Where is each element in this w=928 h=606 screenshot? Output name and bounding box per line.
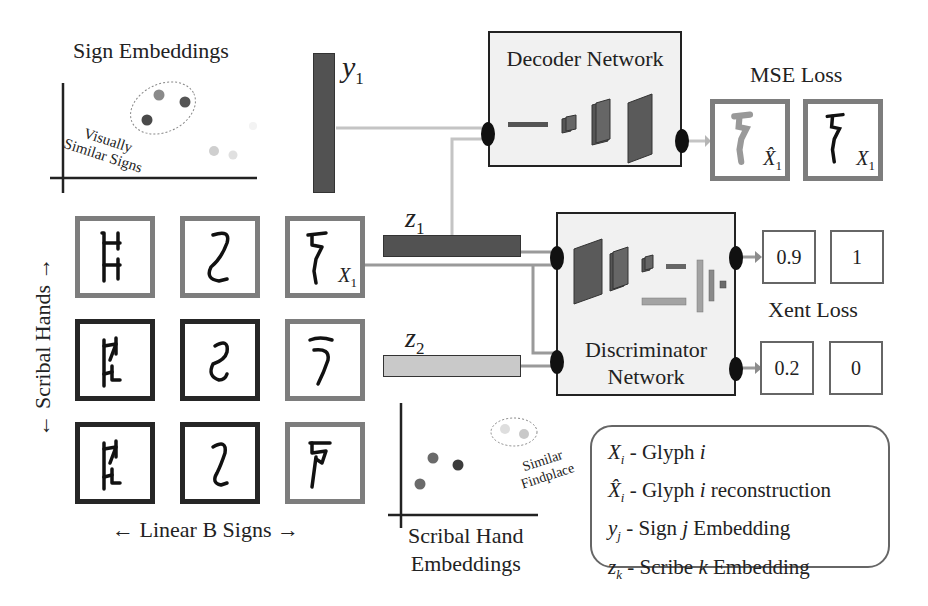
label-sub: 1 [869,158,876,173]
discriminator-output-port-real [729,246,743,270]
discriminator-output-port-fake [729,357,743,381]
layer-conv [645,255,653,270]
legend-item: X̂i - Glyph i reconstruction [608,475,888,513]
embedding-point [453,460,464,471]
reconstruction-label: X̂1 [763,147,782,174]
label-base: X̂ [763,147,775,169]
glyph-tile [180,422,260,504]
y1-base: y [342,50,355,83]
connector-z1-decoder [452,139,490,236]
glyph-tile [285,319,365,401]
legend-symbol: X̂i [608,478,624,502]
decoder-output-port [675,129,689,153]
scribal-hand-embeddings-title: Scribal Hand Embeddings [408,522,523,578]
discriminator-label-line: Discriminator [558,336,734,363]
decoder-network-box: Decoder Network [488,31,682,167]
embedding-point [519,429,529,439]
ladder-sign-glyph [80,427,150,499]
embedding-point [500,424,510,434]
arrowhead [755,251,762,263]
glyph-tile [180,319,260,401]
glyph-tile [75,319,155,401]
fake-target-box: 0 [829,341,883,395]
discriminator-input-port-real [550,246,564,270]
legend-text: - Sign [621,516,682,540]
original-label: X1 [856,147,875,174]
glyph-stroke [104,344,116,360]
title-line: Embeddings [408,550,523,578]
z1-label: z1 [405,202,424,239]
title-line: Scribal Hand [408,522,523,550]
layer-output [628,94,652,163]
legend-text: - Glyph [624,440,699,464]
legend-symbol: zk [608,555,622,579]
real-prediction-box: 0.9 [762,230,816,284]
hook-sign-glyph [290,427,360,499]
real-target-box: 1 [830,230,884,284]
legend-text: Embedding [708,555,810,579]
legend-text: reconstruction [706,478,831,502]
discriminator-network-box: Discriminator Network [556,212,736,396]
label-sub: 1 [776,158,783,173]
glyph-tile [75,216,155,298]
scribal-hands-axis-label: ← Scribal Hands → [30,247,56,447]
label-base: X [338,264,350,286]
glyph-tile [285,422,365,504]
s-curve-sign-glyph [185,221,255,293]
xent-loss-title: Xent Loss [768,297,858,323]
ladder-sign-glyph [80,324,150,396]
ladder-sign-glyph [80,221,150,293]
glyph-stroke [312,235,322,283]
discriminator-label-line: Network [558,363,734,390]
legend-symbol: yj [608,516,621,540]
y1-sub: 1 [355,69,364,88]
notation-legend: Xi - Glyph iX̂i - Glyph i reconstruction… [590,425,890,568]
z2-label: z2 [405,322,424,359]
s-curve-sign-glyph [185,427,255,499]
y1-label: y1 [342,50,364,89]
layer-dense-v [697,260,703,312]
y1-vector [313,53,335,193]
legend-item: yj - Sign j Embedding [608,513,888,551]
legend-text: - Scribe [622,555,698,579]
z2-base: z [405,322,416,353]
decoder-layers [490,33,684,169]
label-sub: 1 [351,275,358,290]
glyph-stroke [104,447,116,463]
z1-vector [383,235,521,257]
embedding-point [428,453,439,464]
connector-x1-discriminator-lower [533,265,558,353]
layer-dense-v [709,270,714,301]
embedding-point [415,479,426,490]
glyph-tile [75,422,155,504]
fake-prediction-box: 0.2 [760,341,814,395]
layer-dense [508,122,548,127]
glyph-tile: X1 [285,216,365,298]
decoder-input-port [481,122,495,146]
legend-text: Embedding [688,516,790,540]
layer-conv [613,247,628,289]
discriminator-label: Discriminator Network [558,336,734,390]
glyph-stroke [112,469,120,483]
glyph-stroke [112,366,120,380]
legend-text: - Glyph [624,478,699,502]
glyph-stroke [102,233,104,281]
z1-base: z [405,202,416,233]
glyph-stroke [213,444,227,485]
mse-loss-title: MSE Loss [750,62,842,88]
layer-dense-h [642,298,686,305]
label-base: X [856,147,868,169]
legend-variable: i [700,440,706,464]
original-tile: X1 [803,99,883,181]
x1-label: X1 [338,264,357,291]
legend-symbol: Xi [608,440,624,464]
glyph-stroke [312,457,316,487]
hook-sign-glyph [290,324,360,396]
s-curve-sign-glyph [185,324,255,396]
legend-item: Xi - Glyph i [608,437,888,475]
legend-item: zk - Scribe k Embedding [608,552,888,590]
glyph-stroke [310,338,332,340]
glyph-stroke [211,343,227,380]
reconstruction-tile: X̂1 [710,99,790,181]
layer-conv [566,115,576,131]
